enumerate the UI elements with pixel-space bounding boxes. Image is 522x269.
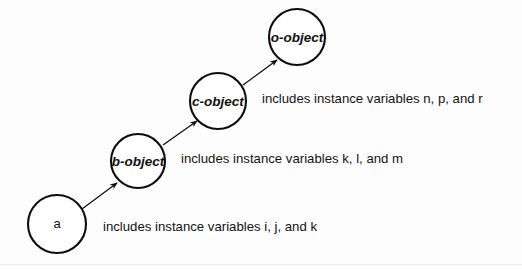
node-label-b-object: b-object <box>112 154 165 169</box>
diagram-canvas: a b-object c-object o-object includes in… <box>0 0 522 269</box>
edge-a-to-b-object <box>82 183 117 209</box>
inheritance-chain-diagram: a b-object c-object o-object includes in… <box>0 0 522 269</box>
edge-b-object-to-c-object <box>163 121 197 145</box>
edge-group <box>82 60 277 209</box>
node-o-object[interactable]: o-object <box>269 9 325 65</box>
node-label-a: a <box>53 216 61 231</box>
page-scan-edge <box>0 264 522 265</box>
node-c-object[interactable]: c-object <box>190 73 246 129</box>
edge-c-object-to-o-object <box>243 60 277 85</box>
node-a[interactable]: a <box>28 195 86 253</box>
node-b-object[interactable]: b-object <box>111 134 165 188</box>
annotation-b-object: includes instance variables k, l, and m <box>181 151 403 166</box>
node-label-o-object: o-object <box>271 30 324 45</box>
annotation-a: includes instance variables i, j, and k <box>103 219 317 234</box>
node-label-c-object: c-object <box>192 94 244 109</box>
annotation-c-object: includes instance variables n, p, and r <box>262 91 483 106</box>
